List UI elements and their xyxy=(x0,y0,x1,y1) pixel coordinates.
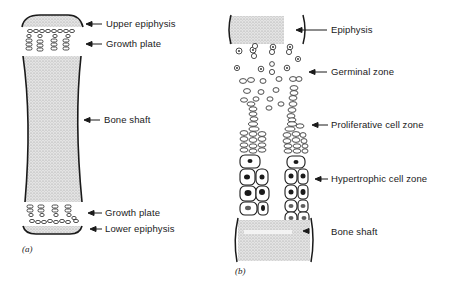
hypertrophic-zone-cells xyxy=(240,155,309,224)
label-germinal-zone: Germinal zone xyxy=(331,67,394,77)
bone-growth-diagram xyxy=(0,0,450,285)
label-epiphysis: Epiphysis xyxy=(331,25,373,35)
label-upper-epiphysis: Upper epiphysis xyxy=(106,19,176,29)
lower-growth-plate-cells xyxy=(27,205,79,224)
label-bone-shaft-b: Bone shaft xyxy=(331,227,377,237)
label-bone-shaft-a: Bone shaft xyxy=(104,115,150,125)
label-growth-plate-bottom: Growth plate xyxy=(105,208,160,218)
panel-a-arrows xyxy=(84,22,102,232)
germinal-zone-cells xyxy=(234,43,300,74)
caption-panel-b: (b) xyxy=(235,266,246,276)
label-proliferative-zone: Proliferative cell zone xyxy=(331,120,424,130)
panel-b-growth-plate xyxy=(229,15,313,262)
panel-a-bone xyxy=(22,15,83,234)
upper-growth-plate-cells xyxy=(26,29,75,51)
proliferative-zone-cells xyxy=(240,77,309,154)
label-hypertrophic-zone: Hypertrophic cell zone xyxy=(331,174,427,184)
caption-panel-a: (a) xyxy=(22,244,33,254)
label-lower-epiphysis: Lower epiphysis xyxy=(105,224,175,234)
label-growth-plate-top: Growth plate xyxy=(106,39,161,49)
